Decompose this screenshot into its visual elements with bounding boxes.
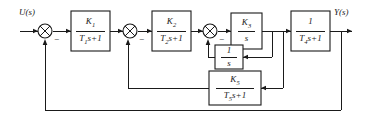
- arrow-g3-to-g4: [286, 29, 291, 34]
- arrow-output: [347, 29, 352, 34]
- summing-junction-3: [203, 24, 217, 38]
- block-g4-numerator: 1: [291, 17, 330, 28]
- arrow-inner-into-sum3: [206, 39, 211, 45]
- arrow-sum2-to-g2: [147, 29, 152, 34]
- sum1-minus-sign: −: [54, 35, 59, 44]
- block-g2-numerator: K2: [152, 17, 191, 28]
- block-g3-denominator: s: [231, 34, 262, 45]
- arrow-middle-into-sum2: [126, 39, 131, 45]
- block-g2-denominator: T2s+1: [152, 34, 191, 45]
- arrow-input-to-sum1: [33, 29, 38, 34]
- output-signal-label: Y(s): [334, 8, 349, 17]
- block-h1-numerator: 1: [215, 46, 243, 57]
- block-g1-numerator: K1: [71, 17, 110, 28]
- summing-junction-2: [123, 24, 137, 38]
- block-g3-numerator: K3: [231, 18, 262, 29]
- block-g1-denominator: T1s+1: [71, 34, 110, 45]
- block-h2-numerator: K5: [209, 75, 261, 86]
- arrow-outer-into-sum1: [43, 39, 48, 45]
- summing-junction-1: [38, 24, 52, 38]
- arrow-g1-to-sum2: [118, 29, 123, 34]
- arrow-g2-to-sum3: [198, 29, 203, 34]
- arrow-sum3-to-g3: [226, 29, 231, 34]
- arrow-sum1-to-g1: [66, 29, 71, 34]
- block-h1-denominator: s: [215, 59, 243, 70]
- arrow-into-h1: [243, 55, 248, 60]
- input-signal-label: U(s): [19, 8, 35, 17]
- block-h2-denominator: T5s+1: [209, 91, 261, 102]
- sum2-minus-sign: −: [139, 35, 144, 44]
- block-diagram-canvas: U(s) Y(s) K1 T1s+1 K2 T2s+1 K3 s 1 T4s+1…: [0, 0, 365, 122]
- sum3-minus-sign: −: [219, 35, 224, 44]
- arrow-into-h2: [261, 86, 266, 91]
- block-g4-denominator: T4s+1: [291, 34, 330, 45]
